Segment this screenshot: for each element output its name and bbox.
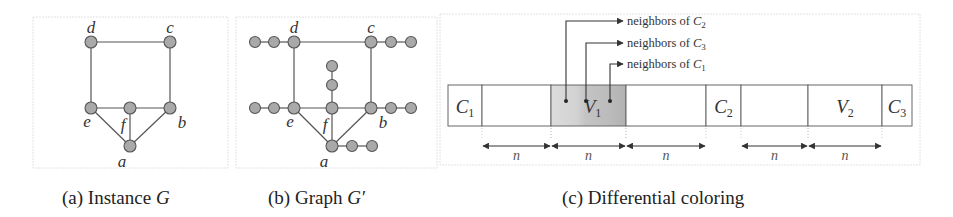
pendant-node	[327, 80, 338, 91]
pendant-node	[347, 141, 358, 152]
span-label: n	[663, 148, 670, 163]
vertex-label-b: b	[178, 113, 187, 132]
pendant-node	[386, 103, 397, 114]
caption-b: (b) Graph G′	[268, 187, 366, 209]
vertex-a	[124, 140, 136, 152]
graph-edge	[130, 108, 170, 146]
vertex-label-f: f	[121, 115, 128, 134]
vertex-d	[288, 36, 300, 48]
panel-differential-coloring: C1V1C2V2C3neighbors of C2neighbors of C3…	[448, 14, 912, 163]
pendant-node	[367, 141, 378, 152]
pendant-node	[250, 103, 261, 114]
span-label: n	[771, 148, 778, 163]
pendant-node	[250, 37, 261, 48]
vertex-f	[326, 102, 338, 114]
span-label: n	[585, 148, 592, 163]
caption-c: (c) Differential coloring	[562, 187, 745, 209]
vertex-a	[326, 140, 338, 152]
figure-canvas: dcefba dcefba C1V1C2V2C3neighbors of C2n…	[0, 0, 953, 217]
vertex-d	[85, 36, 97, 48]
pendant-node	[269, 37, 280, 48]
vertex-label-e: e	[286, 112, 294, 131]
panel-graph-g-prime: dcefba	[250, 18, 417, 171]
pendant-node	[269, 103, 280, 114]
pendant-node	[406, 103, 417, 114]
vertex-label-d: d	[87, 18, 96, 37]
strip-cell	[482, 85, 551, 126]
vertex-c	[164, 36, 176, 48]
vertex-label-a: a	[118, 152, 127, 171]
vertex-label-b: b	[379, 113, 388, 132]
span-label: n	[842, 148, 849, 163]
neighbors-label: neighbors of C2	[627, 14, 706, 30]
vertex-label-c: c	[367, 18, 375, 37]
vertex-c	[365, 36, 377, 48]
panel-instance-g: dcefba	[83, 18, 186, 171]
strip-cell	[626, 85, 706, 126]
vertex-f	[124, 102, 136, 114]
caption-a: (a) Instance G	[62, 187, 170, 209]
vertex-label-f: f	[323, 115, 330, 134]
neighbors-label: neighbors of C3	[627, 36, 706, 52]
span-label: n	[513, 148, 520, 163]
vertex-b	[365, 102, 377, 114]
pendant-node	[406, 37, 417, 48]
vertex-label-d: d	[290, 18, 299, 37]
vertex-label-e: e	[83, 112, 91, 131]
vertex-label-c: c	[166, 18, 174, 37]
vertex-label-a: a	[320, 152, 329, 171]
neighbors-label: neighbors of C1	[627, 57, 706, 73]
pendant-node	[327, 61, 338, 72]
vertex-b	[164, 102, 176, 114]
pendant-node	[386, 37, 397, 48]
strip-cell	[741, 85, 808, 126]
